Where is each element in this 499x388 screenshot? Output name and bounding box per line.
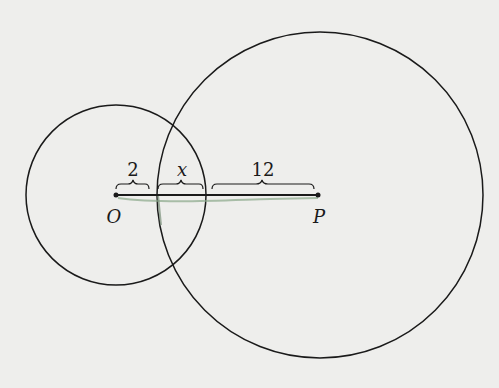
point-o [114, 193, 119, 198]
label-p: P [312, 206, 326, 227]
label-12: 12 [252, 159, 275, 180]
label-2: 2 [127, 159, 138, 180]
highlight-stroke [118, 198, 318, 201]
brace-left [116, 180, 149, 189]
brace-middle [158, 180, 203, 189]
brace-right [212, 180, 314, 189]
label-x: x [177, 159, 187, 180]
label-o: O [107, 206, 122, 227]
point-p [316, 193, 321, 198]
circles-diagram: 2 x 12 O P [0, 0, 499, 388]
